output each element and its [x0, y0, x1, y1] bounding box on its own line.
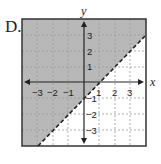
x-tick: −2 [47, 87, 58, 98]
x-axis-label: x [149, 75, 156, 89]
y-tick: −3 [86, 125, 97, 136]
x-tick: −3 [32, 87, 43, 98]
y-tick: 1 [87, 61, 92, 72]
y-tick: 3 [87, 30, 92, 41]
y-axis-label: y [80, 4, 87, 18]
x-tick: −1 [63, 87, 74, 98]
y-tick: 2 [87, 46, 92, 57]
x-tick: 3 [127, 87, 132, 98]
y-tick: −1 [86, 93, 97, 104]
inequality-graph: −3 −2 −1 1 2 3 3 2 1 −1 −2 −3 y x [0, 0, 161, 164]
y-tick: −2 [86, 109, 97, 120]
x-tick: 2 [112, 87, 117, 98]
